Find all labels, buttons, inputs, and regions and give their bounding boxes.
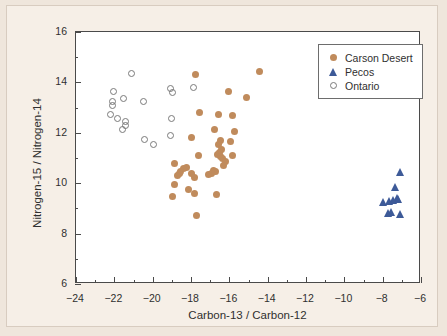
data-point	[215, 141, 222, 148]
data-point	[114, 115, 121, 122]
y-tick-major	[75, 183, 81, 184]
x-tick-minor	[134, 280, 135, 284]
filled-circle-icon	[326, 54, 340, 61]
chart-figure: Carson Desert Pecos Ontario −24−22−20−18…	[0, 0, 447, 336]
x-tick-minor	[249, 280, 250, 284]
data-point	[211, 126, 218, 133]
data-point	[169, 89, 176, 96]
x-tick-minor	[95, 280, 96, 284]
data-point	[210, 167, 217, 174]
data-point	[225, 88, 232, 95]
x-tick-label: −12	[296, 292, 314, 304]
x-tick-minor	[364, 280, 365, 284]
y-axis-title: Nitrogen-15 / Nitrogen-14	[31, 63, 43, 263]
data-point	[185, 186, 192, 193]
data-point	[167, 132, 174, 139]
x-tick-major	[76, 277, 77, 283]
x-tick-major	[268, 277, 269, 283]
data-point	[385, 197, 393, 205]
figure-panel: Carson Desert Pecos Ontario −24−22−20−18…	[6, 5, 438, 327]
data-point	[229, 152, 236, 159]
data-point	[379, 198, 387, 206]
data-point	[229, 112, 236, 119]
data-point	[243, 94, 250, 101]
x-tick-label: −14	[258, 292, 276, 304]
data-point	[180, 165, 187, 172]
data-point	[140, 98, 147, 105]
x-tick-minor	[325, 280, 326, 284]
x-tick-minor	[287, 280, 288, 284]
data-point	[183, 164, 190, 171]
data-point	[190, 84, 197, 91]
data-point	[219, 155, 226, 162]
data-point	[217, 137, 224, 144]
data-point	[391, 183, 399, 191]
x-tick-major	[421, 277, 422, 283]
legend-label: Carson Desert	[345, 52, 413, 64]
x-tick-minor	[402, 280, 403, 284]
x-tick-major	[383, 277, 384, 283]
data-point	[193, 212, 200, 219]
y-tick-minor	[75, 108, 79, 109]
y-tick-label: 6	[41, 277, 67, 289]
y-tick-minor	[75, 158, 79, 159]
data-point	[167, 85, 174, 92]
legend-item-pecos: Pecos	[326, 65, 413, 78]
x-tick-label: −6	[414, 292, 426, 304]
x-tick-major	[306, 277, 307, 283]
data-point	[150, 141, 157, 148]
x-axis-title: Carbon-13 / Carbon-12	[75, 309, 420, 321]
data-point	[384, 209, 392, 217]
data-point	[396, 168, 404, 176]
data-point	[171, 160, 178, 167]
x-tick-label: −24	[66, 292, 84, 304]
x-tick-major	[191, 277, 192, 283]
data-point	[227, 138, 234, 145]
data-point	[174, 172, 181, 179]
data-point	[205, 171, 212, 178]
chart-legend: Carson Desert Pecos Ontario	[318, 44, 423, 99]
data-point	[109, 98, 116, 105]
data-point	[122, 122, 129, 129]
legend-item-ontario: Ontario	[326, 79, 413, 92]
x-tick-major	[114, 277, 115, 283]
data-point	[256, 68, 263, 75]
data-point	[168, 115, 175, 122]
data-point	[208, 170, 215, 177]
data-point	[222, 158, 229, 165]
x-tick-label: −10	[334, 292, 352, 304]
filled-triangle-icon	[326, 68, 340, 76]
x-tick-label: −20	[143, 292, 161, 304]
x-tick-minor	[172, 280, 173, 284]
data-point	[215, 111, 222, 118]
data-point	[141, 136, 148, 143]
x-tick-minor	[210, 280, 211, 284]
data-point	[188, 134, 195, 141]
x-tick-label: −22	[104, 292, 122, 304]
legend-label: Pecos	[345, 66, 374, 78]
y-tick-label: 10	[41, 176, 67, 188]
x-tick-label: −18	[181, 292, 199, 304]
data-point	[214, 151, 221, 158]
data-point	[191, 174, 198, 181]
data-point	[177, 168, 184, 175]
data-point	[216, 149, 223, 156]
data-point	[120, 95, 127, 102]
data-point	[107, 111, 114, 118]
data-point	[122, 118, 129, 125]
data-point	[213, 191, 220, 198]
data-point	[176, 170, 183, 177]
plot-area: Carson Desert Pecos Ontario	[75, 31, 420, 283]
data-point	[396, 210, 404, 218]
x-tick-major	[229, 277, 230, 283]
data-point	[394, 195, 402, 203]
y-tick-label: 12	[41, 126, 67, 138]
x-tick-label: −8	[376, 292, 388, 304]
data-point	[387, 208, 395, 216]
y-tick-minor	[75, 57, 79, 58]
data-point	[188, 170, 195, 177]
y-tick-major	[75, 234, 81, 235]
data-point	[128, 70, 135, 77]
data-point	[109, 102, 116, 109]
data-point	[217, 153, 224, 160]
